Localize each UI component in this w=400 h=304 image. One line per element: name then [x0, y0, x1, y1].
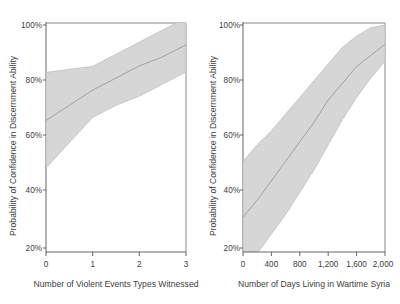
left-y-tick-80: 80%	[26, 76, 42, 85]
figure-container: Probability of Confidence in Discernment…	[0, 0, 400, 304]
right-y-tick-40: 40%	[224, 186, 240, 195]
right-x-tick-0: 0	[241, 260, 246, 269]
right-x-tick-1200: 1,200	[318, 260, 339, 269]
right-y-tick-100: 100%	[219, 21, 240, 30]
left-y-axis-title: Probability of Confidence in Discernment…	[8, 55, 18, 236]
right-x-axis-title: Number of Days Living in Wartime Syria	[238, 279, 390, 289]
right-ci-band	[243, 25, 385, 270]
right-y-tick-80: 80%	[224, 76, 240, 85]
right-x-tick-400: 400	[265, 260, 279, 269]
left-x-axis-title: Number of Violent Events Types Witnessed	[34, 279, 199, 289]
left-x-tick-marks	[46, 252, 186, 256]
right-y-tick-20: 20%	[224, 244, 240, 253]
left-ci-band	[46, 18, 186, 168]
violent-events-panel: Probability of Confidence in Discernment…	[0, 0, 200, 304]
right-x-tick-marks	[243, 252, 385, 256]
left-x-tick-0: 0	[44, 260, 49, 269]
left-x-tick-3: 3	[184, 260, 189, 269]
right-y-tick-60: 60%	[224, 131, 240, 140]
days-in-syria-panel: Probability of Confidence in Discernment…	[200, 0, 400, 304]
left-y-tick-100: 100%	[21, 21, 42, 30]
left-x-tick-1: 1	[90, 260, 95, 269]
right-y-axis-title: Probability of Confidence in Discernment…	[208, 55, 218, 236]
left-y-tick-40: 40%	[26, 186, 42, 195]
right-x-tick-2000: 2,000	[373, 260, 394, 269]
left-y-tick-20: 20%	[26, 244, 42, 253]
left-x-tick-2: 2	[137, 260, 142, 269]
left-y-tick-60: 60%	[26, 131, 42, 140]
right-x-tick-1600: 1,600	[346, 260, 367, 269]
right-panel-svg: Probability of Confidence in Discernment…	[200, 0, 400, 304]
right-x-tick-800: 800	[293, 260, 307, 269]
left-panel-svg: Probability of Confidence in Discernment…	[0, 0, 200, 304]
